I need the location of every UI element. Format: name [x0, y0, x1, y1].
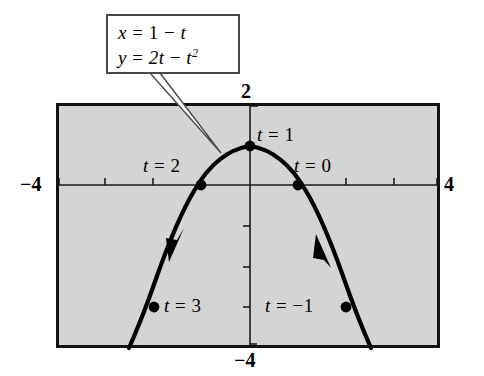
equation-y-equals: =: [132, 47, 143, 68]
label-point-t1: t = 1: [257, 124, 295, 146]
axis-label-left: −4: [20, 173, 41, 196]
label-point-tm1: t = −1: [265, 295, 314, 317]
equation-y-minus: −: [170, 47, 181, 68]
label-point-t2: t = 2: [143, 155, 181, 177]
equation-line-x: x = 1 − t: [118, 20, 238, 45]
label-point-t3: t = 3: [164, 295, 202, 317]
axis-label-right: 4: [444, 173, 454, 196]
equation-y-term1: 2t: [149, 47, 165, 68]
equation-x-term: t: [180, 22, 186, 43]
label-point-t0: t = 0: [294, 155, 332, 177]
axis-label-top: 2: [241, 80, 251, 103]
equation-line-y: y = 2t − t2: [118, 45, 238, 70]
equations-callout: x = 1 − t y = 2t − t2: [106, 14, 240, 74]
equation-x-minus: −: [164, 22, 175, 43]
parametric-curve-figure: x = 1 − t y = 2t − t2 2 −4 −4 4 t = 1 t …: [0, 0, 484, 376]
equation-x-const: 1: [149, 22, 159, 43]
equation-y-lhs: y: [118, 47, 127, 68]
plot-panel: [56, 103, 440, 348]
axis-label-bottom: −4: [234, 349, 255, 372]
equation-x-lhs: x: [118, 22, 127, 43]
equation-x-equals: =: [132, 22, 143, 43]
equation-y-term2: t2: [186, 47, 198, 68]
